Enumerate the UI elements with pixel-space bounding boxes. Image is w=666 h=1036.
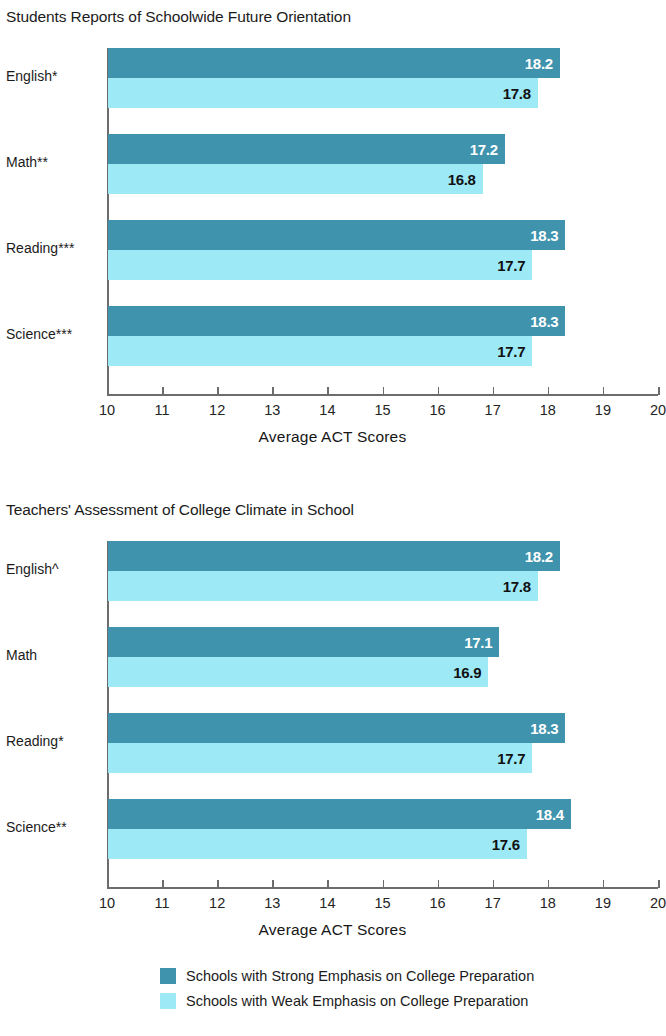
x-axis-tick [162, 880, 164, 888]
category-label: English^ [6, 561, 59, 577]
x-axis-tick [383, 387, 385, 395]
x-axis-tick [327, 880, 329, 888]
x-axis-tick-label: 11 [155, 402, 170, 418]
bar-weak: 17.7 [108, 336, 532, 366]
bar-group: Science**18.417.6 [0, 797, 665, 865]
x-axis-tick-label: 17 [485, 402, 501, 418]
bar-group: English*18.217.8 [0, 46, 665, 114]
x-axis-tick [217, 880, 219, 888]
bar-value-label: 18.4 [536, 806, 564, 823]
x-axis-tick-label: 16 [430, 895, 446, 911]
chart-title: Teachers' Assessment of College Climate … [6, 501, 354, 519]
x-axis-tick-label: 20 [650, 402, 666, 418]
chart-legend: Schools with Strong Emphasis on College … [160, 963, 665, 1013]
bar-value-label: 18.3 [530, 720, 558, 737]
bar-value-label: 17.6 [492, 836, 520, 853]
bar-strong: 17.2 [108, 134, 505, 164]
x-axis-tick-label: 11 [155, 895, 170, 911]
x-axis-tick [548, 880, 550, 888]
x-axis-tick [272, 387, 274, 395]
bar-weak: 17.6 [108, 829, 527, 859]
x-axis-tick-label: 13 [264, 895, 280, 911]
x-axis-tick-label: 18 [540, 402, 556, 418]
x-axis-tick-label: 17 [485, 895, 501, 911]
bar-value-label: 16.9 [453, 664, 481, 681]
x-axis-tick [438, 387, 440, 395]
plot-area: English^18.217.8Math17.116.9Reading*18.3… [0, 535, 665, 887]
legend-swatch-weak-icon [160, 993, 176, 1009]
bar-weak: 16.8 [108, 164, 483, 194]
category-label: Science*** [6, 326, 72, 342]
x-axis-tick [603, 880, 605, 888]
x-axis-tick [327, 387, 329, 395]
bar-strong: 18.3 [108, 713, 565, 743]
legend-item-weak: Schools with Weak Emphasis on College Pr… [160, 988, 665, 1013]
x-axis-tick [658, 880, 660, 888]
bar-weak: 17.8 [108, 571, 538, 601]
bar-value-label: 17.7 [497, 343, 525, 360]
x-axis-title: Average ACT Scores [0, 428, 665, 446]
x-axis-tick [107, 880, 109, 888]
bar-strong: 18.3 [108, 306, 565, 336]
x-axis-tick [493, 387, 495, 395]
x-axis-tick-label: 13 [264, 402, 280, 418]
category-label: English* [6, 68, 57, 84]
x-axis-tick [548, 387, 550, 395]
category-label: Reading* [6, 733, 64, 749]
x-axis-tick-label: 12 [209, 402, 225, 418]
chart-title: Students Reports of Schoolwide Future Or… [6, 8, 351, 26]
bar-weak: 16.9 [108, 657, 488, 687]
x-axis-tick [603, 387, 605, 395]
legend-label-strong: Schools with Strong Emphasis on College … [186, 968, 534, 984]
bar-strong: 18.4 [108, 799, 571, 829]
bar-strong: 17.1 [108, 627, 499, 657]
bar-value-label: 18.2 [525, 548, 553, 565]
x-axis-title: Average ACT Scores [0, 921, 665, 939]
bar-strong: 18.2 [108, 541, 560, 571]
x-axis-tick-label: 10 [99, 402, 115, 418]
legend-label-weak: Schools with Weak Emphasis on College Pr… [186, 993, 528, 1009]
bar-value-label: 17.7 [497, 257, 525, 274]
bar-strong: 18.2 [108, 48, 560, 78]
x-axis-tick [658, 387, 660, 395]
legend-item-strong: Schools with Strong Emphasis on College … [160, 963, 665, 988]
plot-area: English*18.217.8Math**17.216.8Reading***… [0, 42, 665, 394]
x-axis-tick-label: 18 [540, 895, 556, 911]
x-axis-tick [272, 880, 274, 888]
bar-group: Science***18.317.7 [0, 304, 665, 372]
x-axis-tick [493, 880, 495, 888]
bar-weak: 17.7 [108, 250, 532, 280]
bar-group: Math**17.216.8 [0, 132, 665, 200]
bar-value-label: 16.8 [448, 171, 476, 188]
x-axis-tick [162, 387, 164, 395]
x-axis-tick-label: 20 [650, 895, 666, 911]
category-label: Science** [6, 819, 67, 835]
x-axis-tick-label: 10 [99, 895, 115, 911]
bar-value-label: 17.2 [470, 141, 498, 158]
x-axis-tick-label: 15 [374, 402, 390, 418]
category-label: Math** [6, 154, 48, 170]
bar-value-label: 17.1 [464, 634, 492, 651]
bar-value-label: 18.3 [530, 313, 558, 330]
x-axis-tick [383, 880, 385, 888]
x-axis-tick-label: 19 [595, 895, 611, 911]
x-axis-tick-label: 14 [319, 402, 335, 418]
x-axis-tick-label: 12 [209, 895, 225, 911]
x-axis-tick-label: 15 [374, 895, 390, 911]
x-axis-tick-label: 16 [430, 402, 446, 418]
bar-group: Math17.116.9 [0, 625, 665, 693]
category-label: Reading*** [6, 240, 75, 256]
bar-weak: 17.8 [108, 78, 538, 108]
bar-strong: 18.3 [108, 220, 565, 250]
bar-value-label: 17.7 [497, 750, 525, 767]
bar-value-label: 18.3 [530, 227, 558, 244]
x-axis-tick-label: 19 [595, 402, 611, 418]
bar-group: Reading*18.317.7 [0, 711, 665, 779]
x-axis-tick [107, 387, 109, 395]
bar-weak: 17.7 [108, 743, 532, 773]
x-axis-tick [438, 880, 440, 888]
x-axis-tick [217, 387, 219, 395]
bar-group: Reading***18.317.7 [0, 218, 665, 286]
category-label: Math [6, 647, 37, 663]
